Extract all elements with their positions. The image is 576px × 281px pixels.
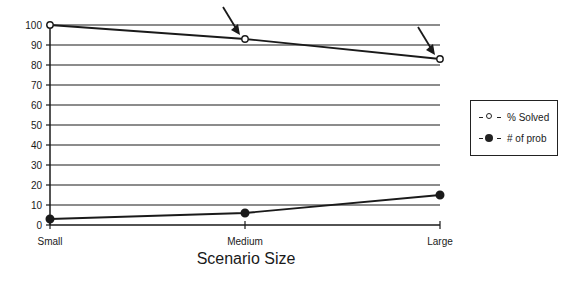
y-tick-label: 0: [36, 220, 42, 231]
open-circle-marker-icon: [242, 36, 248, 42]
x-tick-label: Large: [427, 236, 453, 247]
x-axis: SmallMediumLarge: [37, 221, 453, 247]
filled-circle-marker-icon: [46, 215, 54, 223]
open-circle-marker-icon: [47, 22, 53, 28]
filled-circle-marker-icon: [436, 191, 444, 199]
legend: % Solved # of prob: [470, 100, 558, 156]
y-tick-label: 50: [31, 120, 43, 131]
y-tick-label: 90: [31, 40, 43, 51]
open-circle-marker-icon: [437, 56, 443, 62]
y-tick-label: 30: [31, 160, 43, 171]
data-series: [46, 22, 444, 223]
y-tick-label: 10: [31, 200, 43, 211]
gridlines: [50, 25, 440, 205]
y-tick-label: 100: [25, 20, 42, 31]
arrow-head-icon: [231, 24, 240, 35]
arrow-head-icon: [426, 44, 435, 55]
y-axis: 0102030405060708090100: [25, 20, 50, 231]
y-tick-label: 20: [31, 180, 43, 191]
open-circle-marker-icon: [479, 111, 501, 123]
y-tick-label: 70: [31, 80, 43, 91]
legend-label: # of prob: [507, 133, 546, 144]
filled-circle-marker-icon: [479, 132, 501, 144]
x-tick-label: Medium: [227, 236, 263, 247]
arrow-shaft: [223, 7, 237, 30]
legend-label: % Solved: [507, 112, 549, 123]
x-tick-label: Small: [37, 236, 62, 247]
x-axis-title: Scenario Size: [197, 250, 296, 267]
y-tick-label: 40: [31, 140, 43, 151]
filled-circle-marker-icon: [241, 209, 249, 217]
y-tick-label: 80: [31, 60, 43, 71]
legend-item-percent-solved: % Solved: [479, 110, 549, 124]
y-tick-label: 60: [31, 100, 43, 111]
arrow-shaft: [418, 27, 432, 50]
legend-item-num-problems: # of prob: [479, 131, 546, 145]
